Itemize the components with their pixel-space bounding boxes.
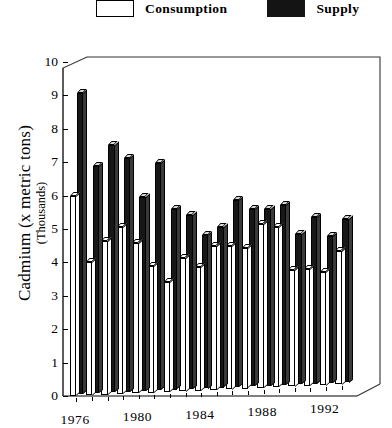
x-axis-labels: 19761980198419881992 (62, 404, 392, 428)
legend-swatch-consumption (96, 0, 134, 17)
bar-side-face (170, 278, 174, 392)
x-tick-label: 1976 (60, 412, 89, 428)
bar-side-face (92, 258, 96, 395)
x-tick-mark (342, 386, 343, 390)
x-tick-mark (232, 391, 233, 395)
bar-side-face (333, 232, 337, 383)
x-tick-mark (295, 388, 296, 392)
chart-legend: Consumption Supply (0, 0, 392, 26)
bar-side-face (139, 239, 143, 393)
chart-figure: Consumption Supply Cadmium (x metric ton… (0, 0, 392, 428)
bar-side-face (146, 194, 150, 391)
bar-side-face (130, 154, 134, 391)
bar-side-face (264, 221, 268, 388)
y-tick-label: 8 (40, 122, 58, 136)
y-axis-title-line1: Cadmium (x metric tons) (15, 93, 35, 333)
y-tick-label: 2 (40, 322, 58, 336)
bar-side-face (186, 254, 190, 391)
x-tick-mark (279, 389, 280, 393)
bar-side-face (317, 213, 321, 384)
x-tick-mark (201, 393, 202, 397)
x-tick-mark (264, 390, 265, 394)
y-tick-label: 10 (34, 55, 58, 69)
bar-side-face (76, 192, 80, 396)
bar-side-face (224, 224, 228, 388)
x-tick-mark (310, 388, 311, 392)
bar-side-face (232, 242, 236, 389)
x-tick-mark (248, 391, 249, 395)
bar-side-face (154, 262, 158, 393)
y-tick-label: 1 (40, 356, 58, 370)
bar-side-face (201, 263, 205, 390)
y-tick-label: 9 (40, 88, 58, 102)
bar-consumption (70, 196, 76, 396)
bar-side-face (161, 160, 165, 391)
x-tick-label: 1984 (185, 407, 214, 423)
x-tick-mark (326, 387, 327, 391)
x-tick-mark (217, 392, 218, 396)
bar-side-face (217, 243, 221, 390)
bar-side-face (208, 231, 212, 388)
bar-side-face (326, 268, 330, 385)
bar-side-face (115, 142, 119, 393)
bar-side-face (342, 247, 346, 384)
x-tick-mark (186, 393, 187, 397)
x-tick-mark (139, 395, 140, 399)
x-tick-label: 1980 (123, 409, 152, 425)
bar-side-face (193, 212, 197, 389)
bar-side-face (271, 205, 275, 386)
bar-side-face (123, 223, 127, 394)
x-tick-mark (92, 397, 93, 401)
x-tick-mark (108, 397, 109, 401)
y-tick-label: 0 (40, 389, 58, 403)
plot-area: 012345678910 (62, 56, 392, 404)
y-tick-label: 3 (40, 289, 58, 303)
y-tick-label: 4 (40, 255, 58, 269)
bar-side-face (83, 90, 87, 394)
bar-side-face (255, 206, 259, 387)
y-tick-label: 5 (40, 222, 58, 236)
x-tick-mark (123, 396, 124, 400)
bar-side-face (239, 196, 243, 387)
x-tick-label: 1992 (310, 401, 339, 417)
x-tick-mark (170, 394, 171, 398)
bar-side-face (286, 201, 290, 385)
y-tick-label: 6 (40, 189, 58, 203)
y-tick-label: 7 (40, 155, 58, 169)
x-tick-mark (76, 398, 77, 402)
bar-side-face (349, 215, 353, 382)
legend-label-consumption: Consumption (145, 2, 227, 16)
legend-swatch-supply (267, 0, 305, 17)
bar-side-face (108, 237, 112, 394)
x-tick-mark (154, 395, 155, 399)
bar-side-face (177, 206, 181, 390)
x-tick-label: 1988 (248, 404, 277, 420)
bar-side-face (295, 266, 299, 386)
bar-side-face (248, 245, 252, 389)
bar-side-face (279, 223, 283, 387)
bar-side-face (302, 230, 306, 384)
bar-series-container (62, 56, 392, 404)
bar-side-face (310, 265, 314, 385)
bar-side-face (99, 162, 103, 393)
legend-label-supply: Supply (316, 2, 359, 16)
y-axis-title: Cadmium (x metric tons) (Thousands) (0, 96, 44, 336)
